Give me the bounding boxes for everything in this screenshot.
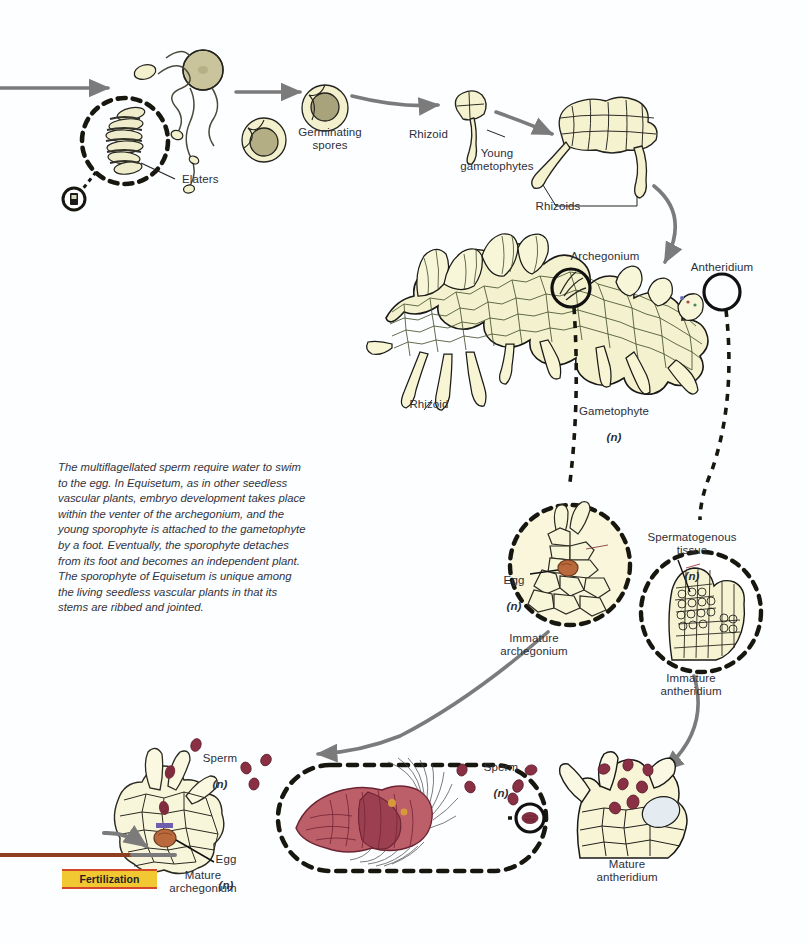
label-germinating-spores: Germinating spores bbox=[283, 126, 377, 152]
label-gametophyte-text: Gametophyte bbox=[579, 405, 649, 417]
single-sperm-magnifier-icon bbox=[508, 804, 548, 832]
microscope-marker-icon bbox=[63, 188, 85, 210]
label-sperm-right-ploidy: (n) bbox=[494, 787, 509, 799]
label-mature-antheridium: Mature antheridium bbox=[578, 858, 676, 884]
label-spermatogenous-tissue: Spermatogenous tissue (n) bbox=[630, 518, 754, 583]
fertilization-badge: Fertilization bbox=[62, 869, 157, 889]
caption-text: The multiflagellated sperm require water… bbox=[58, 460, 308, 616]
label-egg-mature-text: Egg bbox=[216, 853, 237, 865]
label-young-gametophytes: Young gametophytes bbox=[447, 147, 547, 173]
label-mature-archegonium: Mature archegonium bbox=[157, 869, 249, 895]
life-cycle-diagram: Elaters Germinating spores Rhizoid Young… bbox=[0, 0, 808, 945]
mature-antheridium-art bbox=[560, 752, 687, 858]
label-sperm-left: Sperm (n) bbox=[196, 739, 244, 791]
label-sperm-right-text: Sperm bbox=[484, 761, 518, 773]
label-immature-archegonium: Immature archegonium bbox=[484, 632, 584, 658]
label-rhizoid-young: Rhizoid bbox=[392, 128, 448, 141]
label-egg-immature-text: Egg bbox=[504, 574, 525, 586]
label-egg-immature-ploidy: (n) bbox=[507, 600, 522, 612]
label-sperm-left-text: Sperm bbox=[203, 752, 237, 764]
label-antheridium: Antheridium bbox=[674, 261, 770, 274]
label-sperm-left-ploidy: (n) bbox=[213, 778, 228, 790]
antheridium-marker-icon bbox=[704, 274, 740, 310]
label-rhizoids: Rhizoids bbox=[516, 200, 600, 213]
label-egg-immature: Egg (n) bbox=[494, 561, 534, 613]
label-spermatogenous-tissue-ploidy: (n) bbox=[685, 570, 700, 582]
label-gametophyte: Gametophyte (n) bbox=[566, 392, 662, 444]
label-sperm-right: Sperm (n) bbox=[477, 748, 525, 800]
label-elaters: Elaters bbox=[182, 173, 242, 186]
elater-magnifier-icon bbox=[63, 98, 175, 210]
young-gametophytes-cluster-art bbox=[532, 97, 657, 198]
label-spermatogenous-tissue-text: Spermatogenous tissue bbox=[648, 531, 737, 556]
label-gametophyte-ploidy: (n) bbox=[607, 431, 622, 443]
label-immature-antheridium: Immature antheridium bbox=[636, 672, 746, 698]
label-rhizoid-mass: Rhizoid bbox=[400, 398, 458, 411]
label-archegonium: Archegonium bbox=[555, 250, 655, 263]
